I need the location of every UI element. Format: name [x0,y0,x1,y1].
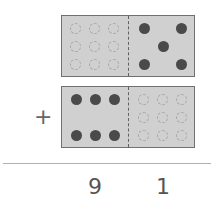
filled-dot [109,94,120,105]
filled-dot [176,23,187,34]
domino-divider [128,87,129,147]
bottom-domino [61,86,195,148]
empty-dot [70,41,81,52]
empty-dot [89,23,100,34]
filled-dot [176,59,187,70]
empty-dot [138,112,149,123]
empty-dot [89,41,100,52]
empty-dot [89,59,100,70]
top-domino [61,15,195,77]
empty-dot [138,130,149,141]
empty-dot [176,94,187,105]
filled-dot [71,130,82,141]
filled-dot [71,94,82,105]
empty-dot [108,59,119,70]
answer-tens: 9 [88,174,102,200]
empty-dot [108,23,119,34]
filled-dot [109,130,120,141]
empty-dot [70,23,81,34]
empty-dot [157,94,168,105]
plus-sign: + [34,106,52,128]
filled-dot [139,59,150,70]
sum-line [3,163,211,164]
empty-dot [176,112,187,123]
filled-dot [139,23,150,34]
empty-dot [176,130,187,141]
empty-dot [157,130,168,141]
empty-dot [157,112,168,123]
answer-ones: 1 [156,174,170,200]
filled-dot [90,94,101,105]
filled-dot [90,130,101,141]
filled-dot [158,41,169,52]
domino-divider [128,16,129,76]
empty-dot [108,41,119,52]
empty-dot [70,59,81,70]
empty-dot [138,94,149,105]
